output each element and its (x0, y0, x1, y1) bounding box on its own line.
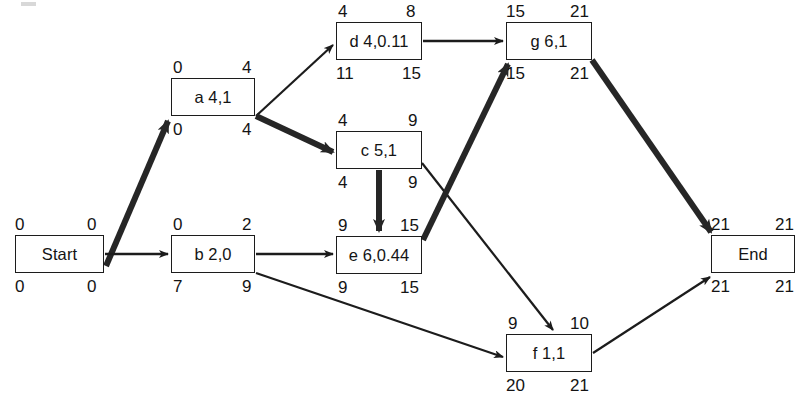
node-start-late-finish: 0 (87, 278, 96, 295)
node-f-late-start: 20 (506, 377, 525, 394)
node-a-late-finish: 4 (242, 121, 251, 138)
node-c-label: c 5,1 (361, 142, 397, 159)
node-d-late-finish: 15 (402, 65, 421, 82)
node-e-late-start: 9 (338, 279, 347, 296)
node-a[interactable]: a 4,1 (171, 78, 255, 116)
node-g-label: g 6,1 (530, 33, 567, 50)
edge-g-end (592, 60, 711, 232)
network-diagram-canvas: Start 0 0 0 0 a 4,1 0 4 0 4 b 2,0 0 2 7 … (0, 0, 798, 403)
scan-artifact (21, 2, 36, 6)
node-c[interactable]: c 5,1 (336, 131, 422, 169)
node-f-late-finish: 21 (570, 377, 589, 394)
edge-layer (0, 0, 798, 403)
node-b-late-finish: 9 (242, 278, 251, 295)
edge-start-a (106, 121, 168, 266)
edge-a-d (256, 45, 333, 116)
node-end-early-finish: 21 (775, 216, 794, 233)
edge-f-end (593, 277, 710, 353)
node-f-early-start: 9 (508, 315, 517, 332)
node-e-label: e 6,0.44 (349, 247, 409, 264)
node-f-early-finish: 10 (570, 315, 589, 332)
node-end-late-finish: 21 (775, 278, 794, 295)
node-b-early-finish: 2 (242, 216, 251, 233)
node-g-late-start: 15 (506, 65, 525, 82)
edge-c-f (422, 163, 553, 330)
edge-b-f (256, 273, 503, 357)
node-start-early-finish: 0 (87, 216, 96, 233)
node-end-early-start: 21 (711, 216, 730, 233)
node-end-label: End (738, 246, 768, 263)
node-g-early-finish: 21 (570, 3, 589, 20)
edge-a-c (256, 116, 333, 152)
node-g-early-start: 15 (506, 3, 525, 20)
node-d-label: d 4,0.11 (349, 33, 408, 50)
node-start-label: Start (42, 246, 77, 263)
node-e[interactable]: e 6,0.44 (336, 236, 422, 274)
node-b-late-start: 7 (173, 278, 182, 295)
node-c-early-start: 4 (338, 112, 347, 129)
node-a-early-start: 0 (173, 59, 182, 76)
node-start[interactable]: Start (15, 235, 104, 273)
node-c-late-finish: 9 (408, 174, 417, 191)
node-e-early-start: 9 (338, 217, 347, 234)
node-d-early-start: 4 (338, 3, 347, 20)
node-g[interactable]: g 6,1 (506, 22, 592, 60)
node-end-late-start: 21 (711, 278, 730, 295)
node-e-early-finish: 15 (400, 217, 419, 234)
node-a-early-finish: 4 (242, 59, 251, 76)
node-b-early-start: 0 (173, 216, 182, 233)
node-a-label: a 4,1 (194, 89, 231, 106)
node-d-early-finish: 8 (406, 3, 415, 20)
node-a-late-start: 0 (173, 121, 182, 138)
node-g-late-finish: 21 (570, 65, 589, 82)
node-c-early-finish: 9 (408, 112, 417, 129)
node-b[interactable]: b 2,0 (171, 235, 255, 273)
node-d-late-start: 11 (336, 65, 354, 82)
node-e-late-finish: 15 (400, 279, 419, 296)
node-b-label: b 2,0 (194, 246, 231, 263)
node-end[interactable]: End (711, 235, 795, 273)
node-start-early-start: 0 (15, 216, 24, 233)
node-d[interactable]: d 4,0.11 (336, 22, 422, 60)
node-f-label: f 1,1 (533, 345, 566, 362)
edge-e-g (423, 64, 508, 240)
node-c-late-start: 4 (338, 174, 347, 191)
node-f[interactable]: f 1,1 (506, 334, 592, 372)
node-start-late-start: 0 (15, 278, 24, 295)
